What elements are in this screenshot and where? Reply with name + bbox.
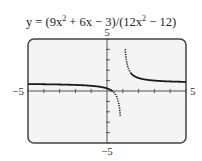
y-min-label: −5 — [101, 145, 113, 157]
y-max-label: 5 — [104, 26, 110, 38]
x-min-label: −5 — [12, 85, 24, 97]
chart-canvas: 5 −5 −5 5 — [0, 0, 202, 161]
x-max-label: 5 — [190, 85, 196, 97]
